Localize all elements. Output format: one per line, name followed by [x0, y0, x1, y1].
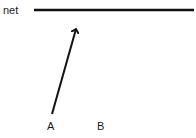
point-b-label: B: [97, 120, 104, 132]
diagram-canvas: [0, 0, 196, 138]
point-a-label: A: [47, 120, 54, 132]
arrow-a-to-net: [52, 29, 76, 114]
net-label: net: [3, 4, 18, 16]
